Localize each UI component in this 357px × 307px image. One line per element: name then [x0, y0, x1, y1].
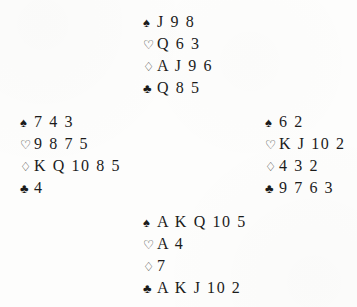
suit-cards-clubs: A K J 10 2 — [157, 280, 241, 296]
spade-icon: ♠ — [265, 116, 278, 129]
suit-row-hearts: ♡ 9 8 7 5 — [20, 136, 121, 158]
suit-cards-diamonds: A J 9 6 — [157, 58, 213, 74]
suit-cards-hearts: A 4 — [157, 236, 184, 252]
suit-cards-clubs: 4 — [34, 180, 44, 196]
suit-cards-hearts: Q 6 3 — [157, 36, 201, 52]
heart-icon: ♡ — [265, 139, 278, 152]
suit-row-clubs: ♣ 4 — [20, 180, 121, 202]
spade-icon: ♠ — [143, 16, 156, 29]
suit-row-hearts: ♡ A 4 — [143, 236, 247, 258]
suit-row-diamonds: ♢ 4 3 2 — [265, 158, 346, 180]
suit-row-clubs: ♣ 9 7 6 3 — [265, 180, 346, 202]
suit-cards-hearts: 9 8 7 5 — [34, 136, 89, 152]
suit-row-diamonds: ♢ A J 9 6 — [143, 58, 213, 80]
hand-north: ♠ J 9 8 ♡ Q 6 3 ♢ A J 9 6 ♣ Q 8 5 — [143, 14, 213, 102]
suit-cards-diamonds: K Q 10 8 5 — [34, 158, 121, 174]
club-icon: ♣ — [265, 182, 278, 195]
bridge-deal-diagram: ♠ J 9 8 ♡ Q 6 3 ♢ A J 9 6 ♣ Q 8 5 ♠ 7 4 … — [0, 0, 357, 307]
suit-cards-hearts: K J 10 2 — [279, 136, 346, 152]
suit-cards-clubs: Q 8 5 — [157, 80, 201, 96]
suit-row-diamonds: ♢ K Q 10 8 5 — [20, 158, 121, 180]
heart-icon: ♡ — [20, 139, 33, 152]
hand-south: ♠ A K Q 10 5 ♡ A 4 ♢ 7 ♣ A K J 10 2 — [143, 214, 247, 302]
suit-row-spades: ♠ A K Q 10 5 — [143, 214, 247, 236]
suit-cards-diamonds: 4 3 2 — [279, 158, 319, 174]
diamond-icon: ♢ — [143, 61, 156, 74]
spade-icon: ♠ — [20, 116, 33, 129]
diamond-icon: ♢ — [143, 261, 156, 274]
hand-west: ♠ 7 4 3 ♡ 9 8 7 5 ♢ K Q 10 8 5 ♣ 4 — [20, 114, 121, 202]
suit-row-diamonds: ♢ 7 — [143, 258, 247, 280]
heart-icon: ♡ — [143, 39, 156, 52]
suit-row-spades: ♠ 6 2 — [265, 114, 346, 136]
suit-cards-spades: J 9 8 — [157, 14, 195, 30]
suit-row-hearts: ♡ K J 10 2 — [265, 136, 346, 158]
suit-cards-clubs: 9 7 6 3 — [279, 180, 334, 196]
suit-cards-diamonds: 7 — [157, 258, 167, 274]
diamond-icon: ♢ — [20, 161, 33, 174]
club-icon: ♣ — [143, 82, 156, 95]
suit-row-hearts: ♡ Q 6 3 — [143, 36, 213, 58]
suit-cards-spades: 6 2 — [279, 114, 304, 130]
hand-east: ♠ 6 2 ♡ K J 10 2 ♢ 4 3 2 ♣ 9 7 6 3 — [265, 114, 346, 202]
suit-row-spades: ♠ J 9 8 — [143, 14, 213, 36]
spade-icon: ♠ — [143, 216, 156, 229]
suit-row-spades: ♠ 7 4 3 — [20, 114, 121, 136]
suit-cards-spades: A K Q 10 5 — [157, 214, 247, 230]
club-icon: ♣ — [143, 282, 156, 295]
heart-icon: ♡ — [143, 239, 156, 252]
suit-cards-spades: 7 4 3 — [34, 114, 74, 130]
diamond-icon: ♢ — [265, 161, 278, 174]
club-icon: ♣ — [20, 182, 33, 195]
suit-row-clubs: ♣ A K J 10 2 — [143, 280, 247, 302]
suit-row-clubs: ♣ Q 8 5 — [143, 80, 213, 102]
